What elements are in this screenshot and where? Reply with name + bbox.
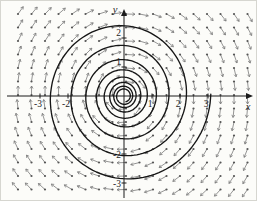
phase-portrait-figure: -3-212321-2-3xy — [0, 0, 257, 201]
x-axis-arrowhead — [246, 93, 253, 99]
x-tick-label: 2 — [176, 99, 181, 109]
y-tick-label: -3 — [113, 179, 121, 189]
y-tick-label: 2 — [116, 28, 121, 38]
y-axis-title: y — [112, 4, 118, 15]
x-tick-label: 3 — [204, 99, 209, 109]
y-axis-arrowhead — [121, 9, 127, 16]
x-tick-label: -3 — [34, 99, 42, 109]
spiral-trajectory — [50, 26, 211, 179]
x-axis-title: x — [245, 101, 251, 112]
x-tick-label: 1 — [148, 99, 153, 109]
vector-field-arrows — [12, 7, 252, 197]
phase-portrait-canvas: -3-212321-2-3xy — [1, 1, 256, 200]
y-tick-label: 1 — [116, 57, 121, 67]
x-tick-label: -2 — [62, 99, 70, 109]
